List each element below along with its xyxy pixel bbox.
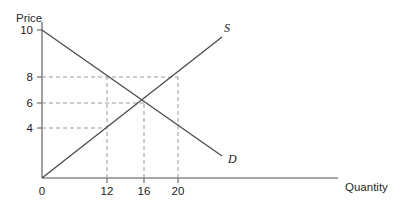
demand-curve-label: D	[227, 152, 237, 166]
axes	[42, 22, 338, 178]
supply-demand-chart: Price Quantity 10 8 6 4 0 12 16 20 S D	[0, 0, 402, 207]
y-tick-label-6: 6	[27, 97, 33, 109]
x-tick-label-16: 16	[138, 185, 151, 197]
guide-lines	[42, 77, 178, 178]
y-axis-title: Price	[16, 12, 42, 24]
y-tick-label-8: 8	[27, 71, 33, 83]
curves	[42, 30, 222, 178]
origin-label: 0	[39, 185, 45, 197]
x-axis-title: Quantity	[345, 181, 388, 193]
y-tick-label-10: 10	[20, 24, 33, 36]
chart-canvas: Price Quantity 10 8 6 4 0 12 16 20 S D	[0, 0, 402, 207]
supply-curve	[42, 37, 222, 178]
x-tick-label-12: 12	[101, 185, 114, 197]
demand-curve	[42, 30, 222, 156]
y-tick-label-4: 4	[27, 122, 34, 134]
supply-curve-label: S	[224, 21, 230, 35]
x-tick-label-20: 20	[172, 185, 185, 197]
